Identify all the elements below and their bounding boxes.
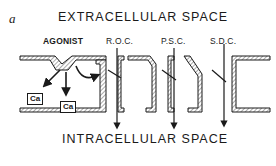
calcium-ion-store: Ca xyxy=(27,93,43,105)
intracellular-label: INTRACELLULAR SPACE xyxy=(62,132,228,146)
calcium-ion-membrane: Ca xyxy=(60,101,76,113)
agonist-arrows xyxy=(46,66,96,92)
channel-arrows xyxy=(108,44,226,126)
membrane-segments xyxy=(20,56,270,112)
